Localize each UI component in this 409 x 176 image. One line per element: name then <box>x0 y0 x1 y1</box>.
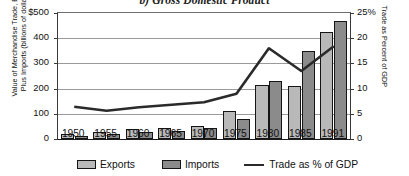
chart-container: b) Gross Domestic Product Value of Merch… <box>0 0 409 176</box>
y-axis-right-tick <box>350 139 354 140</box>
y-axis-right-tick-label: 5 <box>357 107 362 118</box>
x-axis-tick-label: 1965 <box>153 128 189 139</box>
y-axis-left-tick-label: 100 <box>0 107 49 118</box>
y-axis-left-tick-label: 200 <box>0 82 49 93</box>
x-axis-tick-label: 1955 <box>88 128 124 139</box>
legend-label-exports: Exports <box>100 159 135 170</box>
trend-line <box>58 13 350 139</box>
y-axis-left-tick-label: 0 <box>0 132 49 143</box>
y-axis-right-tick <box>350 89 354 90</box>
y-axis-right-tick-label: 0 <box>357 132 362 143</box>
y-axis-right-tick-label: 20 <box>357 31 367 42</box>
legend-item-imports[interactable]: Imports <box>162 159 219 170</box>
legend-line-trade-pct-icon <box>244 164 264 166</box>
y-axis-right-tick-label: 10 <box>357 82 367 93</box>
y-axis-right-tick <box>350 63 354 64</box>
legend-item-exports[interactable]: Exports <box>77 159 135 170</box>
x-axis-tick-label: 1970 <box>185 128 221 139</box>
chart-title: b) Gross Domestic Product <box>0 0 409 6</box>
legend-swatch-exports-icon <box>77 160 96 169</box>
y-axis-left-tick-label: $500 <box>0 6 49 17</box>
legend-label-trade-pct: Trade as % of GDP <box>269 159 358 170</box>
y-axis-right-tick <box>350 13 354 14</box>
y-axis-left-tick-label: 300 <box>0 56 49 67</box>
legend-swatch-imports-icon <box>162 160 181 169</box>
x-axis-tick-label: 1991 <box>315 128 351 139</box>
y-axis-right-tick-label: 25% <box>357 6 376 17</box>
chart-legend: Exports Imports Trade as % of GDP <box>57 157 349 172</box>
y-axis-left-tick <box>54 139 58 140</box>
x-axis-tick-label: 1950 <box>55 128 91 139</box>
x-axis-tick-label: 1980 <box>250 128 286 139</box>
y-axis-right-tick <box>350 38 354 39</box>
legend-item-trade-pct[interactable]: Trade as % of GDP <box>244 159 358 170</box>
y-axis-right-label: Trade as Percent of GDP <box>380 0 389 101</box>
y-axis-right-tick-label: 15 <box>357 56 367 67</box>
plot-area <box>57 12 351 140</box>
y-axis-left-tick-label: 400 <box>0 31 49 42</box>
legend-label-imports: Imports <box>185 159 219 170</box>
y-axis-right-tick <box>350 114 354 115</box>
x-axis-tick-label: 1960 <box>120 128 156 139</box>
x-axis-tick-label: 1975 <box>217 128 253 139</box>
x-axis-tick-label: 1985 <box>282 128 318 139</box>
